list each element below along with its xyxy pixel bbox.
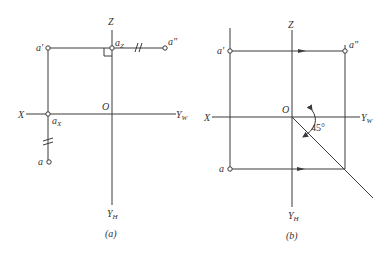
z-axis-label-b: Z: [288, 19, 294, 30]
yh-axis-label: YH: [107, 208, 119, 221]
caption-a: (a): [105, 228, 117, 240]
a-label: a: [38, 156, 43, 167]
figure-b: Z a' a" X O YW 45° a YH (b): [203, 19, 374, 242]
yh-axis-label-b: YH: [288, 210, 300, 223]
a-double-prime-label-b: a": [349, 39, 359, 50]
origin-label-b: O: [282, 104, 289, 115]
diagonal-45-line: [292, 117, 373, 198]
yw-axis-label-b: YW: [361, 112, 374, 125]
projection-diagram: Z a' aZ a" X O YW aX a YH (a): [0, 0, 390, 256]
point-a: [47, 160, 51, 164]
point-ax: [46, 112, 50, 116]
point-a-b: [228, 167, 232, 171]
arrow-right-bottom: [297, 167, 305, 171]
a-double-prime-label: a": [168, 36, 178, 47]
x-axis-label-b: X: [203, 112, 211, 123]
yw-axis-label: YW: [176, 109, 189, 122]
ax-label: aX: [52, 115, 62, 128]
arrow-right-top: [298, 49, 306, 53]
a-prime-label: a': [36, 42, 44, 53]
point-a-double-prime-b: [343, 49, 347, 53]
a-prime-label-b: a': [217, 45, 225, 56]
angle-label: 45°: [311, 122, 325, 133]
a-label-b: a: [219, 163, 224, 174]
z-axis-label: Z: [108, 16, 114, 27]
figure-a: Z a' aZ a" X O YW aX a YH (a): [17, 16, 189, 240]
point-a-prime-b: [228, 49, 232, 53]
point-a-double-prime: [163, 46, 167, 50]
point-a-prime: [46, 46, 50, 50]
x-axis-label: X: [17, 109, 25, 120]
origin-label: O: [102, 101, 109, 112]
point-az: [110, 46, 114, 50]
caption-b: (b): [286, 230, 298, 242]
